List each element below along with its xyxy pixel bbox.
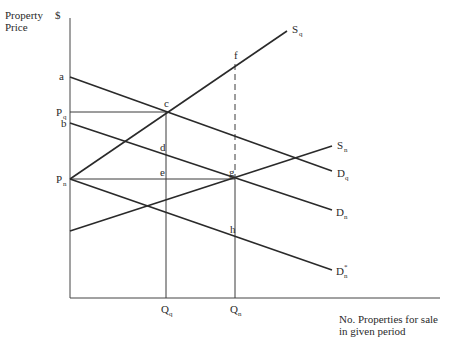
svg-text:*: * [344, 263, 348, 271]
y-tick-b: b [61, 117, 67, 129]
svg-text:n: n [344, 272, 348, 280]
svg-text:Q: Q [230, 303, 238, 315]
svg-text:Q: Q [161, 303, 169, 315]
svg-text:S: S [292, 23, 298, 35]
svg-text:q: q [345, 174, 349, 182]
x-axis-label-line1: No. Properties for sale [339, 313, 438, 325]
y-tick-pn: P n [56, 173, 67, 188]
x-tick-qn: Q n [230, 303, 242, 318]
svg-text:D: D [336, 265, 344, 277]
svg-text:n: n [238, 310, 242, 318]
svg-text:P: P [56, 173, 62, 185]
svg-text:n: n [63, 180, 67, 188]
y-axis-label-line2: Price [5, 21, 28, 33]
svg-text:q: q [169, 310, 173, 318]
label-sn: S n [337, 139, 348, 154]
svg-text:n: n [344, 213, 348, 221]
point-d: d [160, 141, 166, 153]
x-axis-label-line2: in given period [339, 325, 406, 337]
label-dq: D q [337, 167, 349, 182]
label-sq: S q [292, 23, 303, 38]
supply-curve-sq [70, 31, 287, 179]
svg-text:n: n [344, 146, 348, 154]
point-c: c [164, 97, 169, 109]
point-h: h [230, 223, 236, 235]
label-dn: D n [336, 206, 348, 221]
point-g: g [229, 166, 235, 178]
svg-text:D: D [337, 167, 345, 179]
demand-curve-dn [70, 123, 332, 210]
svg-text:q: q [299, 30, 303, 38]
label-dn-star: D n * [336, 263, 348, 280]
y-axis-label-line1: Property [5, 9, 43, 21]
y-axis-unit: $ [55, 9, 61, 21]
y-tick-a: a [59, 70, 64, 82]
point-f: f [234, 49, 238, 61]
svg-text:D: D [336, 206, 344, 218]
point-e: e [160, 166, 165, 178]
demand-curve-dq [70, 77, 332, 171]
svg-text:S: S [337, 139, 343, 151]
supply-curve-sn [70, 146, 332, 231]
demand-curve-dn-star [70, 179, 332, 270]
x-tick-qq: Q q [161, 303, 173, 318]
supply-demand-diagram: Property Price $ a P q b P n Q q Q n No.… [0, 0, 462, 345]
